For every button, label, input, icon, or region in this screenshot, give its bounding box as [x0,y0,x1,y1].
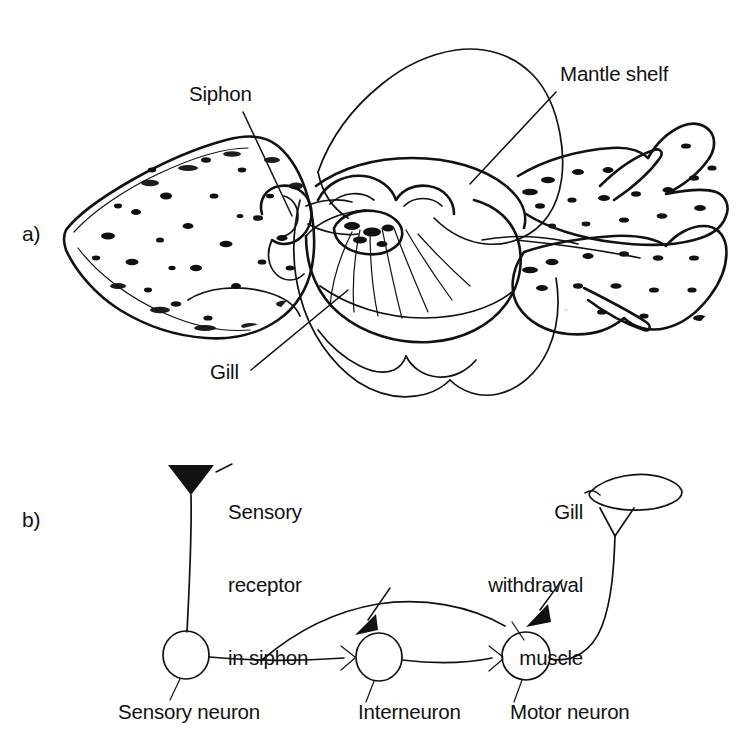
sensory-receptor-icon [168,465,214,495]
label-interneuron: Interneuron [358,700,461,724]
label-motor-neuron: Motor neuron [510,700,630,724]
left-parapodium [64,137,314,339]
muscle-insertion-fork [600,508,634,536]
label-sensory-neuron: Sensory neuron [118,700,260,724]
panel-b-marker: b) [22,508,40,532]
label-sensory-receptor: Sensory receptor in siphon [228,452,368,718]
label-gill-muscle-line1: Gill [425,500,583,524]
right-upper-stipple [522,143,717,228]
mantle-fold [318,176,454,214]
leader-gill-muscle [585,491,600,495]
sensory-neuron-soma [163,631,209,679]
panel-a-drawing [64,49,727,397]
sensory-neuron-tick [170,679,180,700]
label-mantle-shelf: Mantle shelf [560,62,668,86]
leader-siphon [243,112,292,216]
label-sensory-receptor-line3: in siphon [228,646,368,670]
label-siphon: Siphon [189,82,252,106]
gill-shape [306,200,521,342]
gill-muscle-shape [589,474,682,510]
receptor-axon [187,495,191,632]
panel-a-marker: a) [22,222,40,246]
label-sensory-receptor-line1: Sensory [228,500,368,524]
right-lower-stipple [522,251,707,321]
label-gill-muscle-line3: muscle [425,646,583,670]
label-gill: Gill [210,360,239,384]
diagram-svg [0,0,754,741]
leader-gill [251,290,348,370]
leader-mantle-shelf [470,92,556,184]
label-sensory-receptor-line2: receptor [228,573,368,597]
label-gill-muscle: Gill withdrawal muscle [425,452,583,718]
right-parapodium [513,124,728,335]
label-gill-muscle-line2: withdrawal [425,573,583,597]
figure-canvas: a) b) Siphon Mantle shelf Gill Sensory r… [0,0,754,741]
